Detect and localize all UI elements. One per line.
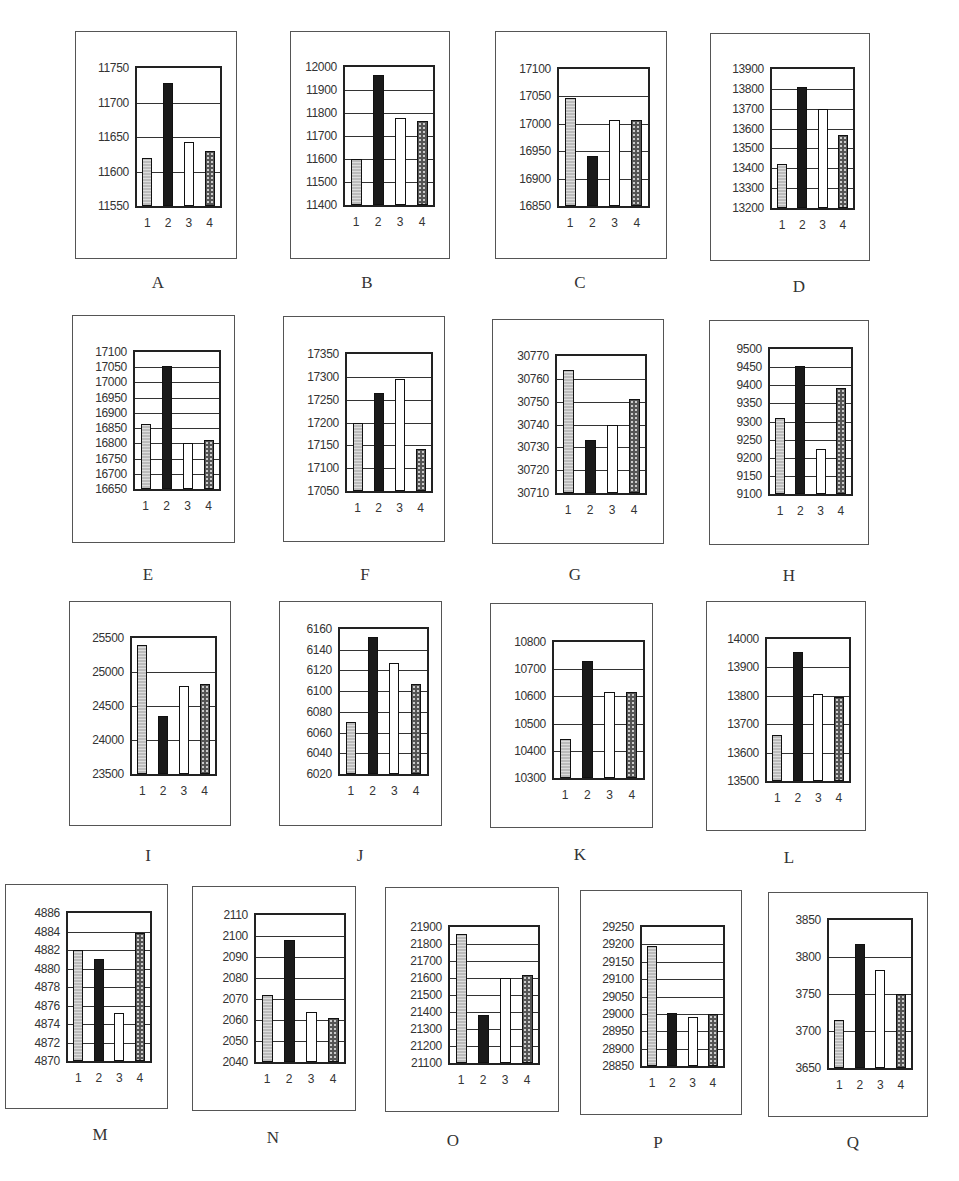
y-tick-label: 28900 — [582, 1043, 634, 1055]
bar-series-3 — [114, 1013, 124, 1061]
x-tick-label: 1 — [558, 788, 572, 802]
y-tick-label: 9300 — [710, 416, 762, 428]
x-tick-label: 1 — [773, 504, 787, 518]
y-tick-label: 11400 — [285, 199, 337, 211]
y-tick-label: 21800 — [390, 938, 442, 950]
y-tick-label: 6100 — [280, 685, 332, 697]
bar-series-3 — [688, 1017, 698, 1066]
x-tick-label: 3 — [498, 1073, 512, 1087]
chart-caption-l: L — [774, 848, 804, 868]
x-tick-label: 2 — [583, 503, 597, 517]
chart-caption-e: E — [133, 565, 163, 585]
y-tick-label: 10800 — [494, 636, 546, 648]
x-tick-label: 3 — [605, 503, 619, 517]
bar-series-1 — [73, 950, 83, 1061]
y-tick-label: 11500 — [285, 176, 337, 188]
y-tick-label: 29050 — [582, 991, 634, 1003]
y-tick-label: 21200 — [390, 1040, 442, 1052]
chart-caption-g: G — [560, 565, 590, 585]
bar-series-3 — [389, 663, 399, 774]
bar-series-2 — [585, 440, 596, 493]
chart-caption-m: M — [85, 1125, 115, 1145]
gridline — [340, 650, 427, 651]
bar-series-2 — [797, 87, 807, 208]
x-tick-label: 1 — [770, 791, 784, 805]
bar-series-2 — [855, 944, 865, 1068]
x-tick-label: 1 — [832, 1078, 846, 1092]
plot-area — [345, 352, 433, 493]
x-tick-label: 2 — [580, 788, 594, 802]
gridline — [256, 936, 344, 937]
y-tick-label: 16800 — [75, 437, 127, 449]
y-tick-label: 4880 — [8, 963, 60, 975]
y-tick-label: 6120 — [280, 664, 332, 676]
bar-series-4 — [708, 1014, 718, 1066]
y-tick-label: 21900 — [390, 921, 442, 933]
y-tick-label: 9350 — [710, 397, 762, 409]
plot-area — [770, 67, 855, 210]
y-tick-label: 16900 — [499, 173, 551, 185]
chart-caption-b: B — [352, 273, 382, 293]
y-tick-label: 11550 — [77, 200, 129, 212]
bar-series-4 — [328, 1018, 339, 1062]
y-tick-label: 17100 — [75, 346, 127, 358]
gridline — [135, 367, 219, 368]
gridline — [767, 667, 849, 668]
bar-series-2 — [478, 1015, 489, 1063]
y-tick-label: 3800 — [769, 951, 821, 963]
chart-caption-k: K — [565, 845, 595, 865]
bar-series-1 — [353, 423, 363, 491]
y-tick-label: 29100 — [582, 973, 634, 985]
bar-series-1 — [777, 164, 787, 208]
bar-series-1 — [137, 645, 147, 774]
y-tick-label: 21700 — [390, 955, 442, 967]
x-tick-label: 1 — [645, 1076, 659, 1090]
y-tick-label: 16850 — [75, 422, 127, 434]
x-tick-label: 3 — [686, 1076, 700, 1090]
y-tick-label: 29200 — [582, 938, 634, 950]
y-tick-label: 21300 — [390, 1023, 442, 1035]
plot-area — [133, 350, 221, 491]
y-tick-label: 21100 — [390, 1057, 442, 1069]
y-tick-label: 16700 — [75, 468, 127, 480]
y-tick-label: 17350 — [287, 348, 339, 360]
bar-series-2 — [94, 959, 104, 1061]
y-tick-label: 2090 — [196, 951, 248, 963]
y-tick-label: 13300 — [712, 182, 764, 194]
gridline — [347, 377, 431, 378]
y-tick-label: 9250 — [710, 434, 762, 446]
gridline — [829, 957, 911, 958]
y-tick-label: 17250 — [287, 394, 339, 406]
plot-area — [130, 636, 217, 776]
x-tick-label: 3 — [814, 504, 828, 518]
x-tick-label: 3 — [811, 791, 825, 805]
y-tick-label: 10400 — [494, 745, 546, 757]
y-tick-label: 4876 — [8, 1000, 60, 1012]
y-tick-label: 30720 — [497, 464, 549, 476]
x-tick-label: 2 — [282, 1072, 296, 1086]
gridline — [68, 932, 150, 933]
y-tick-label: 11700 — [77, 97, 129, 109]
bar-series-3 — [306, 1012, 317, 1062]
y-tick-label: 13800 — [712, 83, 764, 95]
bar-series-1 — [456, 934, 467, 1063]
x-tick-label: 2 — [161, 216, 175, 230]
y-tick-label: 9200 — [710, 452, 762, 464]
chart-caption-a: A — [143, 273, 173, 293]
bar-series-4 — [896, 994, 906, 1068]
x-tick-label: 1 — [139, 499, 153, 513]
plot-area — [768, 347, 853, 496]
y-tick-label: 17100 — [499, 63, 551, 75]
bar-series-3 — [609, 120, 620, 206]
x-tick-label: 2 — [366, 784, 380, 798]
y-tick-label: 30750 — [497, 396, 549, 408]
y-tick-label: 4872 — [8, 1037, 60, 1049]
bar-series-2 — [162, 366, 172, 489]
x-tick-label: 4 — [133, 1071, 147, 1085]
x-tick-label: 2 — [853, 1078, 867, 1092]
x-tick-label: 4 — [832, 791, 846, 805]
y-tick-label: 10700 — [494, 663, 546, 675]
bar-series-1 — [141, 424, 151, 489]
y-tick-label: 4886 — [8, 907, 60, 919]
y-tick-label: 2110 — [196, 909, 248, 921]
